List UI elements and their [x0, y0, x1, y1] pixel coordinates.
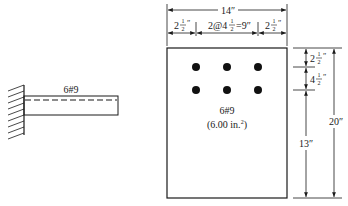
- row-spacing-label: 4 1 2 ″: [310, 72, 326, 86]
- svg-text:″: ″: [323, 73, 326, 82]
- svg-text:2: 2: [310, 53, 315, 64]
- beam-outline: [24, 96, 118, 115]
- section-area-label: (6.00 in.2): [207, 119, 247, 131]
- svg-text:2: 2: [318, 59, 321, 65]
- rebar-icon: [223, 63, 231, 71]
- wall-hatch-icon: [8, 85, 24, 139]
- rebar-dots: [192, 63, 262, 94]
- right-cover-label: 2 1 2 ″: [265, 18, 281, 32]
- svg-text:″: ″: [323, 52, 326, 61]
- width-label: 14″: [221, 5, 235, 16]
- svg-text:″: ″: [278, 19, 281, 28]
- svg-text:4: 4: [310, 74, 315, 85]
- rebar-icon: [254, 63, 262, 71]
- svg-text:2: 2: [231, 26, 234, 32]
- beam-diagram: 6#9 6#9 (6.00 in.2) 14″ 2: [0, 0, 348, 206]
- rebar-icon: [223, 86, 231, 94]
- bottom-depth-label: 13″: [299, 138, 313, 149]
- cantilever-bar-label: 6#9: [64, 84, 79, 95]
- svg-text:1: 1: [182, 18, 185, 24]
- svg-text:2: 2: [182, 26, 185, 32]
- left-cover-label: 2 1 2 ″: [174, 18, 190, 32]
- svg-text:1: 1: [273, 18, 276, 24]
- svg-text:1: 1: [231, 18, 234, 24]
- svg-text:2: 2: [318, 80, 321, 86]
- svg-text:=9″: =9″: [236, 20, 251, 31]
- svg-text:1: 1: [318, 72, 321, 78]
- svg-text:2: 2: [174, 20, 179, 31]
- svg-text:1: 1: [318, 51, 321, 57]
- cross-section: 6#9 (6.00 in.2): [167, 48, 287, 198]
- rebar-icon: [192, 86, 200, 94]
- svg-text:2: 2: [265, 20, 270, 31]
- height-label: 20″: [329, 116, 343, 127]
- svg-text:″: ″: [187, 19, 190, 28]
- section-bar-label: 6#9: [220, 105, 235, 116]
- top-cover-label: 2 1 2 ″: [310, 51, 326, 65]
- cantilever-elevation: 6#9: [8, 84, 118, 139]
- svg-text:2@4: 2@4: [208, 20, 227, 31]
- bar-spacing-label: 2@4 1 2 =9″: [208, 18, 251, 32]
- rebar-icon: [254, 86, 262, 94]
- svg-text:2: 2: [273, 26, 276, 32]
- rebar-icon: [192, 63, 200, 71]
